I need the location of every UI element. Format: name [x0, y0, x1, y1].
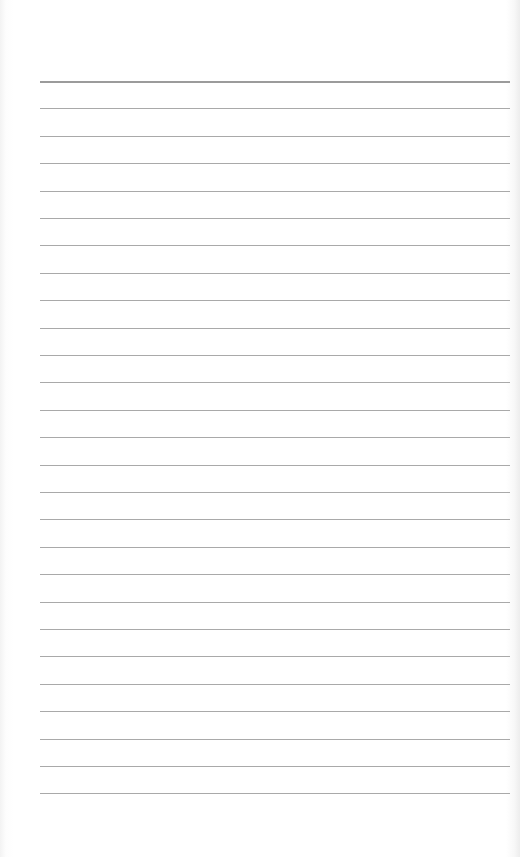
ruled-line	[40, 465, 510, 466]
ruled-line	[40, 355, 510, 356]
ruled-line	[40, 108, 510, 109]
ruled-line	[40, 629, 510, 630]
ruled-line	[40, 547, 510, 548]
ruled-line	[40, 437, 510, 438]
lined-paper-sheet	[0, 0, 520, 857]
ruled-line	[40, 382, 510, 383]
ruled-line	[40, 766, 510, 767]
ruled-line	[40, 602, 510, 603]
ruled-line	[40, 245, 510, 246]
ruled-line	[40, 163, 510, 164]
ruled-line	[40, 711, 510, 712]
ruled-line	[40, 273, 510, 274]
ruled-line	[40, 136, 510, 137]
ruled-line	[40, 328, 510, 329]
ruled-line	[40, 218, 510, 219]
ruled-line	[40, 656, 510, 657]
ruled-line	[40, 81, 510, 83]
ruled-line	[40, 410, 510, 411]
ruled-line	[40, 300, 510, 301]
ruled-line	[40, 793, 510, 794]
ruled-line	[40, 739, 510, 740]
ruled-line	[40, 684, 510, 685]
ruled-line	[40, 574, 510, 575]
ruled-line	[40, 519, 510, 520]
ruled-line	[40, 492, 510, 493]
ruled-line	[40, 191, 510, 192]
